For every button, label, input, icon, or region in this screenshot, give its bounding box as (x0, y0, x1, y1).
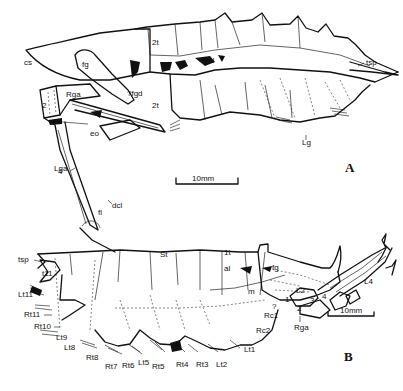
label-a-eo: eo (90, 129, 99, 138)
label-b-rt3: Rt3 (196, 360, 209, 369)
scale-bar-a-label: 10mm (192, 174, 215, 183)
panel-a-label: A (345, 160, 355, 175)
label-b-rt7: Rt7 (105, 362, 118, 371)
label-a-dcl: dcl (112, 201, 122, 210)
label-a-al: al (208, 56, 214, 65)
panel-b-label: B (344, 349, 353, 364)
scale-bar-b-label: 10mm (340, 306, 363, 315)
label-b-rt11: Rt11 (24, 310, 41, 319)
label-b-rc1: Rc1 (264, 311, 279, 320)
label-b-al: al (224, 264, 230, 273)
label-a-fgd: ?fgd (127, 89, 143, 98)
label-a-rga: Rga (66, 90, 81, 99)
label-b-rt6: Rt6 (122, 361, 135, 370)
label-a-fg: fg (82, 60, 89, 69)
label-b-1t: 1t (224, 248, 231, 257)
label-b-rc2: Rc2 (256, 326, 271, 335)
panel-b: tsp t11 Lt11 Rt11 Rt10 Lt9 Lt8 Rt8 Rt7 R… (18, 234, 396, 371)
label-a-lga: Lga (54, 164, 68, 173)
label-b-question: ? (272, 302, 277, 311)
label-b-rt10: Rt10 (34, 322, 51, 331)
label-a-tsp: tsp (366, 58, 377, 67)
label-b-seg2: 2 (297, 304, 302, 313)
label-a-lg: Lg (302, 138, 311, 147)
fossil-arthropod-figure: cs fg 2t 2t ?fgd al tsp Rga 2 4 eo Lga d… (0, 0, 403, 391)
label-b-seg3: 3 (310, 296, 315, 305)
label-b-t11: t11 (42, 269, 53, 278)
label-b-seg4: 4 (322, 292, 327, 301)
label-a-fl: fl (98, 208, 102, 217)
label-a-2t-bottom: 2t (152, 101, 159, 110)
label-a-seg2: 2 (42, 101, 47, 110)
label-b-m: m (248, 287, 255, 296)
label-a-cs: cs (24, 58, 32, 67)
label-b-lt11: Lt11 (18, 290, 34, 299)
label-b-l2: L2 (296, 286, 305, 295)
label-b-tsp: tsp (18, 255, 29, 264)
label-b-rt5: Rt5 (152, 362, 165, 371)
label-b-l4: L4 (364, 277, 373, 286)
panel-a: cs fg 2t 2t ?fgd al tsp Rga 2 4 eo Lga d… (24, 13, 398, 252)
label-b-lt5: Lt5 (138, 358, 150, 367)
label-b-lt1: Lt1 (244, 345, 256, 354)
label-b-lt2: Lt2 (216, 360, 228, 369)
label-b-rt8: Rt8 (86, 353, 99, 362)
label-b-rt4: Rt4 (176, 360, 189, 369)
label-b-lt9: Lt9 (56, 333, 68, 342)
label-b-fg: fg (272, 263, 279, 272)
label-b-rga: Rga (294, 323, 309, 332)
label-b-lt8: Lt8 (64, 343, 76, 352)
label-a-2t-top: 2t (152, 38, 159, 47)
label-b-seg1: 1 (285, 295, 290, 304)
label-b-st: St (160, 250, 168, 259)
